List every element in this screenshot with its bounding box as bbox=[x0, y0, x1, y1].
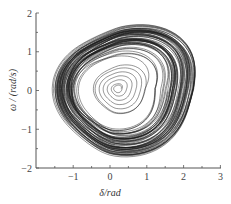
y-axis-ticks: −2−1012 bbox=[21, 8, 39, 174]
trajectory-curve bbox=[52, 25, 195, 157]
y-tick-label: 0 bbox=[27, 85, 32, 96]
y-tick-label: −1 bbox=[21, 124, 32, 135]
x-tick-label: −1 bbox=[68, 171, 79, 182]
phase-portrait-chart: −10123 −2−1012 δ/rad ω / (rad/s) bbox=[0, 0, 231, 204]
x-tick-label: 2 bbox=[181, 171, 186, 182]
y-tick-label: 1 bbox=[27, 46, 32, 57]
y-tick-label: −2 bbox=[21, 163, 32, 174]
phase-trajectory bbox=[52, 25, 195, 157]
x-axis-label: δ/rad bbox=[99, 187, 121, 198]
x-tick-label: 3 bbox=[218, 171, 223, 182]
x-tick-label: 1 bbox=[144, 171, 149, 182]
y-tick-label: 2 bbox=[27, 8, 32, 19]
y-axis-label: ω / (rad/s) bbox=[7, 68, 19, 111]
x-tick-label: 0 bbox=[108, 171, 113, 182]
